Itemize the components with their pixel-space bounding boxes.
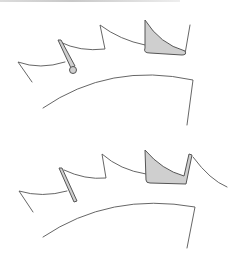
tooth-edge-middle [60,25,145,50]
wheel-rim-arc [43,203,195,248]
tooth-edge-left [19,191,67,212]
tooth-edge-left [18,62,65,82]
tooth-edge-right [193,157,227,187]
pawl-ball [70,67,77,74]
ratchet-diagram [0,0,239,262]
tooth-edge-right [185,25,190,54]
panel-top [18,20,193,125]
shaded-tooth [145,150,192,184]
pawl-bar [59,168,77,202]
wheel-rim-arc [43,75,193,125]
panel-bottom [19,150,227,248]
pawl-needle [58,40,75,68]
tooth-edge-middle [64,154,146,178]
shaded-tooth [145,20,186,55]
